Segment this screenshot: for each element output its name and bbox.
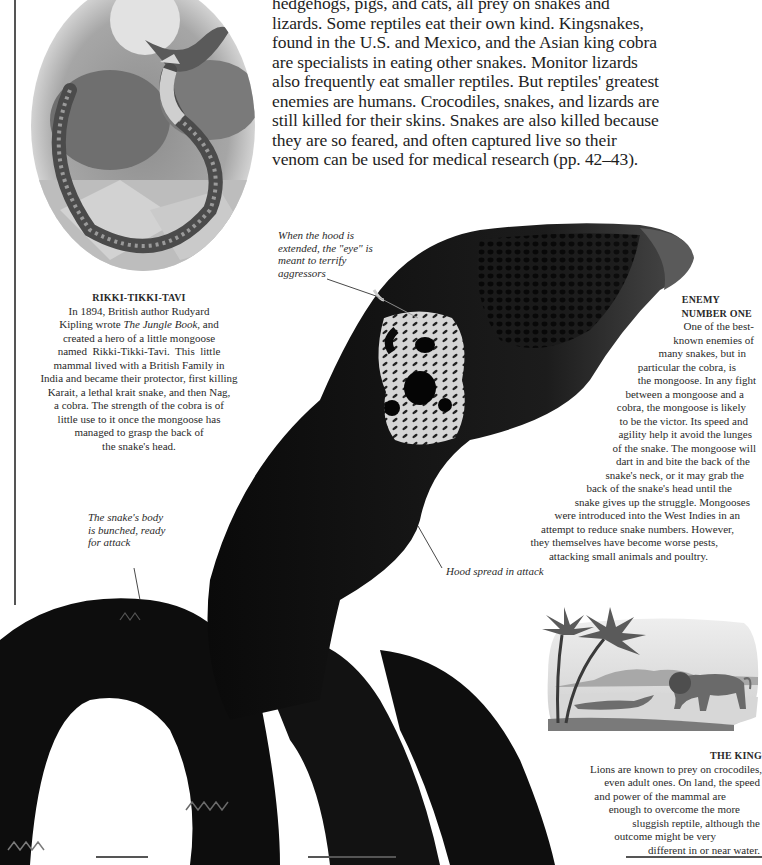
book-title: The Jungle Book bbox=[123, 318, 197, 330]
annotation-line: for attack bbox=[88, 536, 166, 549]
caption-line: snake gives up the struggle. Mongooses bbox=[530, 496, 760, 510]
bottom-rule bbox=[626, 856, 762, 858]
caption-line: One of the best- bbox=[530, 320, 760, 334]
caption-title: NUMBER ONE bbox=[530, 307, 760, 321]
caption-line: attacking small animals and poultry. bbox=[530, 550, 760, 564]
caption-line: different in or near water. bbox=[564, 844, 762, 858]
caption-line: they themselves have become worse pests, bbox=[530, 536, 760, 550]
hood-annotation: Hood spread in attack bbox=[446, 565, 544, 578]
lion-crocodile-engraving bbox=[534, 605, 762, 733]
bottom-rule bbox=[96, 856, 148, 858]
enemy-number-one-caption: ENEMY NUMBER ONE One of the best- known … bbox=[530, 293, 760, 563]
the-king-caption: THE KING Lions are known to prey on croc… bbox=[564, 749, 762, 857]
bottom-rule bbox=[308, 856, 396, 858]
caption-title: THE KING bbox=[564, 749, 762, 763]
caption-line: particular the cobra, is bbox=[530, 361, 760, 375]
caption-line: and power of the mammal are bbox=[564, 790, 762, 804]
caption-line: dart in and bite the back of the bbox=[530, 455, 760, 469]
caption-line: Kipling wrote The Jungle Book, and bbox=[20, 318, 258, 332]
caption-line: even adult ones. On land, the speed bbox=[564, 776, 762, 790]
caption-line: between a mongoose and a bbox=[530, 388, 760, 402]
caption-line: agility help it avoid the lunges bbox=[530, 428, 760, 442]
rikki-tikki-tavi-caption: RIKKI-TIKKI-TAVI In 1894, British author… bbox=[20, 291, 258, 453]
caption-line: attempt to reduce snake numbers. However… bbox=[530, 523, 760, 537]
caption-line: the mongoose. In any fight bbox=[530, 374, 760, 388]
caption-line: back of the snake's head until the bbox=[530, 482, 760, 496]
caption-line: Lions are known to prey on crocodiles, bbox=[564, 763, 762, 777]
caption-line: of the snake. The mongoose will bbox=[530, 442, 760, 456]
caption-line: snake's neck, or it may grab the bbox=[530, 469, 760, 483]
caption-title: ENEMY bbox=[530, 293, 760, 307]
caption-line: the snake's head. bbox=[20, 440, 258, 454]
caption-line: known enemies of bbox=[530, 334, 760, 348]
caption-line: managed to grasp the back of bbox=[20, 426, 258, 440]
body-annotation: The snake's body is bunched, ready for a… bbox=[88, 511, 166, 549]
caption-text: Kipling wrote bbox=[59, 318, 123, 330]
caption-line: named Rikki-Tikki-Tavi. This little bbox=[20, 345, 258, 359]
caption-line: India and became their protector, first … bbox=[20, 372, 258, 386]
caption-line: created a hero of a little mongoose bbox=[20, 332, 258, 346]
caption-line: sluggish reptile, although the bbox=[564, 817, 762, 831]
caption-line: a cobra. The strength of the cobra is of bbox=[20, 399, 258, 413]
caption-line: to be the victor. Its speed and bbox=[530, 415, 760, 429]
caption-line: many snakes, but in bbox=[530, 347, 760, 361]
caption-title: RIKKI-TIKKI-TAVI bbox=[20, 291, 258, 305]
caption-line: In 1894, British author Rudyard bbox=[20, 305, 258, 319]
annotation-line: is bunched, ready bbox=[88, 524, 166, 537]
caption-line: outcome might be very bbox=[564, 830, 762, 844]
caption-line: little use to it once the mongoose has bbox=[20, 413, 258, 427]
engraving-illustration-icon bbox=[534, 605, 762, 733]
caption-line: enough to overcome the more bbox=[564, 803, 762, 817]
caption-line: mammal lived with a British Family in bbox=[20, 359, 258, 373]
annotation-line: Hood spread in attack bbox=[446, 565, 544, 578]
caption-text: , and bbox=[197, 318, 218, 330]
caption-line: cobra, the mongoose is likely bbox=[530, 401, 760, 415]
caption-line: Karait, a lethal krait snake, and then N… bbox=[20, 386, 258, 400]
caption-line: were introduced into the West Indies in … bbox=[530, 509, 760, 523]
annotation-line: The snake's body bbox=[88, 511, 166, 524]
